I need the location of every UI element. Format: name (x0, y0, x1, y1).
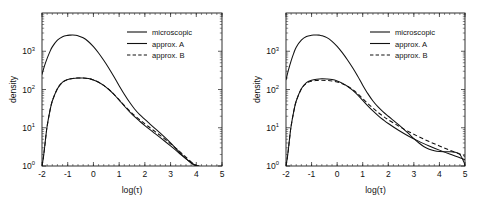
x-tick-label: 5 (463, 169, 468, 179)
y-tick-label: 103 (22, 46, 35, 57)
curve-approx-a (42, 78, 199, 166)
plot-svg-right: -2-1012345100101102103log(τ)densitymicro… (244, 0, 487, 204)
y-tick-label: 100 (266, 160, 279, 171)
x-tick-label: 4 (194, 169, 199, 179)
x-tick-label: 4 (437, 169, 442, 179)
plot-panel-right: -2-1012345100101102103log(τ)densitymicro… (244, 0, 487, 204)
y-tick-label: 102 (22, 84, 35, 95)
legend-label-2: approx. A (152, 40, 185, 49)
y-axis-label: density (8, 75, 18, 103)
x-tick-label: 3 (411, 169, 416, 179)
x-axis-label: log(τ) (365, 185, 386, 195)
x-tick-label: -2 (282, 169, 290, 179)
legend-label-1: microscopic (395, 28, 435, 37)
legend-label-2: approx. A (395, 40, 428, 49)
x-tick-label: 2 (142, 169, 147, 179)
x-tick-label: 0 (335, 169, 340, 179)
legend-label-3: approx. B (395, 51, 428, 60)
y-tick-label: 101 (266, 122, 279, 133)
x-tick-label: -2 (38, 169, 46, 179)
curve-microscopic (286, 35, 465, 166)
figure-container: -2-1012345100101102103log(τ)densitymicro… (0, 0, 487, 204)
x-tick-label: 5 (220, 169, 225, 179)
curve-approx-b (286, 80, 465, 166)
x-tick-label: 0 (91, 169, 96, 179)
plot-svg-left: -2-1012345100101102103log(τ)densitymicro… (0, 0, 244, 204)
y-tick-label: 101 (22, 122, 35, 133)
legend-label-3: approx. B (152, 51, 185, 60)
x-tick-label: 2 (386, 169, 391, 179)
plot-panel-left: -2-1012345100101102103log(τ)densitymicro… (0, 0, 244, 204)
curve-approx-b (42, 78, 199, 166)
x-axis-label: log(τ) (122, 185, 143, 195)
y-tick-label: 100 (22, 160, 35, 171)
x-tick-label: -1 (308, 169, 316, 179)
x-tick-label: 1 (117, 169, 122, 179)
x-tick-label: -1 (64, 169, 72, 179)
y-tick-label: 103 (266, 46, 279, 57)
y-tick-label: 102 (266, 84, 279, 95)
legend-label-1: microscopic (152, 28, 192, 37)
x-tick-label: 3 (168, 169, 173, 179)
plot-frame (286, 13, 465, 166)
y-axis-label: density (252, 75, 262, 103)
x-tick-label: 1 (360, 169, 365, 179)
plot-frame (42, 13, 222, 166)
curve-approx-a (286, 79, 465, 166)
